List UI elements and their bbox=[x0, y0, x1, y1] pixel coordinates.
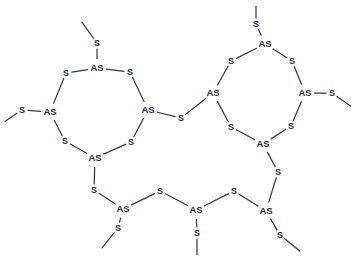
atom-label-s-a18: S bbox=[329, 88, 335, 98]
atom-label-s-a31: S bbox=[277, 230, 283, 240]
atom-label-s-a20: S bbox=[288, 121, 294, 131]
atom-label-as-a2: AS bbox=[90, 62, 103, 73]
atom-label-as-a21: AS bbox=[256, 138, 269, 149]
atom-label-s-a15: S bbox=[289, 56, 295, 66]
atom-label-s-a1: S bbox=[94, 38, 100, 48]
bond-a5-a7 bbox=[28, 110, 41, 111]
atom-label-s-a8: S bbox=[62, 136, 68, 146]
atom-label-as-a6: AS bbox=[141, 104, 154, 115]
atom-label-as-a30: AS bbox=[259, 205, 272, 216]
atom-label-s-a4: S bbox=[127, 67, 133, 77]
atom-label-as-a10: AS bbox=[88, 152, 101, 163]
atom-label-s-a11: S bbox=[178, 113, 184, 123]
atom-label-as-a5: AS bbox=[43, 106, 56, 117]
atom-label-as-a16: AS bbox=[206, 87, 219, 98]
atom-label-s-a19: S bbox=[228, 122, 234, 132]
atom-label-as-a13: AS bbox=[258, 38, 271, 49]
chemical-structure-diagram: SASSSASASSSSASSSASSSASASSSSASSSASSSASSSA… bbox=[0, 0, 360, 262]
atom-label-as-a24: AS bbox=[116, 203, 129, 214]
atom-label-s-a23: S bbox=[91, 185, 97, 195]
atom-label-s-a12: S bbox=[253, 19, 259, 29]
atom-label-s-a22: S bbox=[275, 167, 281, 177]
bond-a10-a23 bbox=[94, 168, 95, 185]
atom-label-s-a29: S bbox=[231, 186, 237, 196]
atom-label-s-a9: S bbox=[128, 137, 134, 147]
atom-label-s-a26: S bbox=[157, 186, 163, 196]
atom-label-s-a28: S bbox=[194, 228, 200, 238]
diagram-background bbox=[0, 0, 360, 262]
atom-label-s-a14: S bbox=[228, 56, 234, 66]
atom-label-s-a25: S bbox=[115, 223, 121, 233]
atom-label-as-a27: AS bbox=[189, 204, 202, 215]
atom-label-as-a17: AS bbox=[298, 87, 311, 98]
atom-label-s-a3: S bbox=[63, 68, 69, 78]
atom-label-s-a7: S bbox=[19, 105, 25, 115]
